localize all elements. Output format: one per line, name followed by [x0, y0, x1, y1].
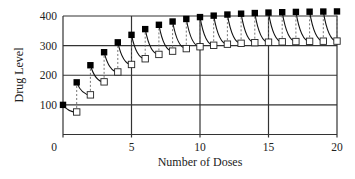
filled-square-marker [265, 9, 271, 15]
filled-square-marker [87, 62, 93, 68]
open-square-marker [265, 39, 271, 45]
decay-curve [173, 22, 187, 49]
y-tick-label: 300 [40, 40, 58, 52]
open-square-marker [142, 56, 148, 62]
open-square-marker [238, 40, 244, 46]
open-square-marker [74, 109, 80, 115]
filled-square-marker [320, 8, 326, 14]
filled-square-marker [115, 39, 121, 45]
filled-square-marker [183, 16, 189, 22]
open-square-marker [224, 41, 230, 47]
decay-curve [241, 14, 255, 43]
x-tick-label: 20 [331, 141, 343, 153]
filled-square-marker [252, 10, 258, 16]
y-tick-label: 200 [40, 69, 58, 81]
open-square-marker [197, 44, 203, 50]
decay-curve [200, 17, 214, 45]
filled-square-marker [293, 9, 299, 15]
decay-curve [214, 16, 228, 45]
open-square-marker [101, 79, 107, 85]
filled-square-marker [60, 102, 66, 108]
x-tick-label: 5 [129, 141, 135, 153]
filled-square-marker [197, 14, 203, 20]
before-dose-markers [74, 38, 341, 115]
open-square-marker [156, 51, 162, 57]
x-tick-label: 15 [263, 141, 275, 153]
y-tick-label: 100 [40, 99, 58, 111]
open-square-marker [115, 69, 121, 75]
filled-square-marker [156, 22, 162, 28]
open-square-marker [334, 38, 340, 44]
decay-curve [186, 19, 200, 47]
dose-connectors [77, 11, 337, 112]
open-square-marker [279, 39, 285, 45]
filled-square-marker [169, 18, 175, 24]
y-axis-title: Drug Level [12, 47, 26, 103]
x-axis-tick-labels: 05101520 [51, 141, 343, 153]
decay-curve [255, 13, 269, 42]
filled-square-marker [211, 12, 217, 18]
filled-square-marker [279, 9, 285, 15]
drug-level-chart: 100200300400 05101520 Number of Doses Dr… [0, 0, 355, 179]
decay-curve [145, 29, 159, 54]
open-square-marker [183, 45, 189, 51]
x-tick-label: 0 [51, 141, 57, 153]
open-square-marker [320, 38, 326, 44]
filled-square-marker [224, 11, 230, 17]
y-tick-label: 400 [40, 10, 58, 22]
x-tick-label: 10 [194, 141, 206, 153]
filled-square-marker [101, 49, 107, 55]
open-square-marker [306, 38, 312, 44]
decay-curve [159, 25, 173, 51]
filled-square-marker [128, 32, 134, 38]
decay-curve [269, 13, 283, 42]
filled-square-marker [238, 10, 244, 16]
open-square-marker [169, 48, 175, 54]
open-square-marker [252, 39, 258, 45]
open-square-marker [87, 92, 93, 98]
open-square-marker [211, 42, 217, 48]
filled-square-marker [306, 9, 312, 15]
decay-curve [227, 15, 241, 44]
open-square-marker [128, 61, 134, 67]
filled-square-marker [142, 26, 148, 32]
x-axis-title: Number of Doses [158, 155, 243, 169]
y-axis-tick-labels: 100200300400 [40, 10, 58, 111]
filled-square-marker [74, 79, 80, 85]
decay-curve [282, 12, 296, 41]
filled-square-marker [334, 8, 340, 14]
open-square-marker [293, 38, 299, 44]
